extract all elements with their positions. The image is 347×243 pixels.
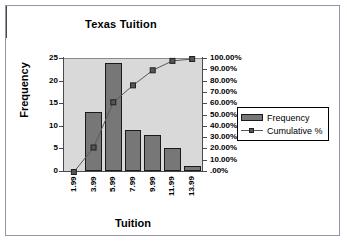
y2-axis-tick-label: 100.00%: [210, 54, 242, 62]
y2-axis-tick-label: 80.00%: [210, 77, 237, 85]
chart-legend: Frequency Cumulative %: [237, 107, 329, 141]
line-marker: [190, 57, 195, 62]
y-axis-title: Frequency: [18, 50, 30, 130]
y2-axis-tick: [202, 137, 207, 138]
y2-axis-tick: [202, 92, 207, 93]
y2-axis-tick: [202, 160, 207, 161]
y-axis-tick-label: 25: [22, 54, 58, 62]
line-marker-swatch-icon: [241, 126, 263, 135]
y-axis-tick-label: 0: [22, 167, 58, 175]
y2-axis-tick: [202, 58, 207, 59]
y2-axis-tick: [202, 103, 207, 104]
y2-axis-tick-label: .00%: [210, 167, 228, 175]
x-axis-tick-label: 3.99: [89, 176, 99, 222]
legend-item-label: Frequency: [267, 113, 310, 123]
y-axis-tick-label: 20: [22, 77, 58, 85]
line-marker: [150, 68, 155, 73]
y2-axis-tick-label: 90.00%: [210, 65, 237, 73]
cumulative-line-path: [74, 59, 192, 172]
y2-axis-tick: [202, 148, 207, 149]
legend-item-cumulative-percent[interactable]: Cumulative %: [241, 124, 323, 137]
x-axis-tick-label: 13.99: [187, 176, 197, 222]
y2-axis-tick: [202, 115, 207, 116]
y2-axis-tick-label: 70.00%: [210, 88, 237, 96]
line-marker: [131, 83, 136, 88]
y2-axis-tick: [202, 81, 207, 82]
y2-axis-tick-label: 40.00%: [210, 122, 237, 130]
y2-axis-tick-label: 50.00%: [210, 111, 237, 119]
x-axis-tick: [6, 34, 7, 38]
chart-title: Texas Tuition: [6, 18, 236, 30]
x-axis-tick-label: 5.99: [108, 176, 118, 222]
line-marker: [111, 100, 116, 105]
x-axis-tick-label: 9.99: [148, 176, 158, 222]
x-axis-tick-label: 7.99: [128, 176, 138, 222]
y2-axis-tick: [202, 69, 207, 70]
y2-axis-tick-label: 10.00%: [210, 156, 237, 164]
y-axis-tick-label: 10: [22, 122, 58, 130]
line-marker: [91, 145, 96, 150]
y2-axis-tick-label: 20.00%: [210, 144, 237, 152]
line-series-cumulative-percent: [64, 59, 202, 172]
y2-axis-tick-label: 60.00%: [210, 99, 237, 107]
chart-frame: Texas Tuition Frequency Tuition 05101520…: [5, 5, 340, 236]
y2-axis-tick-label: 30.00%: [210, 133, 237, 141]
legend-item-label: Cumulative %: [267, 126, 323, 136]
y2-axis-tick: [202, 126, 207, 127]
y-axis-tick-label: 5: [22, 144, 58, 152]
cumulative-markers: [71, 57, 194, 175]
x-axis-tick-label: 1.99: [69, 176, 79, 222]
y2-axis-tick: [202, 171, 207, 172]
line-marker: [71, 170, 76, 175]
x-axis-tick-label: 11.99: [167, 176, 177, 222]
bar-swatch-icon: [241, 114, 263, 121]
y-axis-tick-label: 15: [22, 99, 58, 107]
line-marker: [170, 58, 175, 63]
legend-item-frequency[interactable]: Frequency: [241, 111, 323, 124]
plot-area: [64, 58, 202, 171]
